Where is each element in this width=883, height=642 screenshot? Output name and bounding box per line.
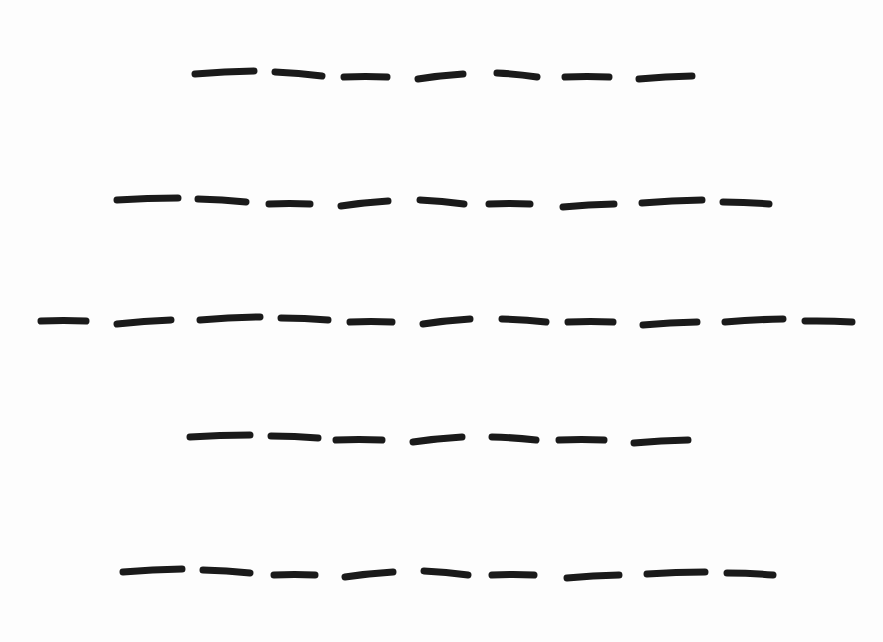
letter-blank — [198, 199, 246, 202]
letter-blank — [269, 204, 310, 205]
letter-blank — [647, 572, 705, 574]
letter-blank — [271, 436, 318, 438]
letter-blank — [492, 575, 534, 576]
letter-blank — [420, 200, 464, 204]
letter-blank — [117, 198, 178, 200]
letter-blank — [643, 322, 697, 325]
letter-blank — [117, 320, 171, 324]
letter-blank — [502, 319, 546, 322]
letter-blank — [190, 435, 250, 437]
letter-blank — [281, 318, 328, 320]
letter-blank — [489, 204, 530, 205]
letter-blank — [727, 573, 773, 575]
letter-blank — [275, 72, 322, 76]
word-row-1 — [195, 71, 692, 79]
letter-blank — [725, 319, 783, 322]
letter-blank — [497, 73, 537, 77]
letter-blank — [805, 321, 852, 322]
letter-blank — [639, 76, 692, 79]
letter-blank — [345, 572, 393, 577]
letter-blank — [634, 440, 688, 443]
letter-blank — [567, 575, 619, 578]
letter-blank — [336, 440, 382, 441]
letter-blank — [423, 319, 470, 324]
letter-blank — [195, 71, 254, 74]
letter-blank — [559, 440, 604, 441]
letter-blank — [344, 77, 387, 78]
letter-blank — [723, 202, 769, 204]
word-row-2 — [117, 198, 769, 207]
letter-blank — [200, 317, 260, 320]
letter-blank — [563, 204, 614, 207]
word-row-3 — [41, 317, 852, 325]
letter-blank — [413, 437, 462, 442]
letter-blank — [341, 201, 388, 206]
letter-blank — [565, 77, 609, 78]
letter-blank — [492, 437, 536, 440]
letter-blank — [418, 74, 463, 79]
letter-blank — [41, 321, 86, 322]
letter-blank — [642, 200, 702, 203]
word-row-4 — [190, 435, 688, 443]
letter-blank — [203, 570, 250, 573]
word-row-5 — [123, 569, 773, 578]
letter-blank — [424, 571, 468, 575]
letter-blank — [350, 322, 392, 323]
blank-puzzle-canvas — [0, 0, 883, 642]
letter-blank — [274, 575, 315, 576]
letter-blank — [123, 569, 182, 572]
letter-blank — [568, 322, 613, 323]
